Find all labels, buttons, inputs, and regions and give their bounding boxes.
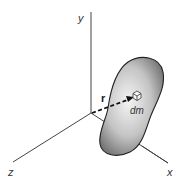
mass-element-cube-icon [133,91,141,101]
z-axis-label: z [7,166,14,178]
x-axis-front [142,146,168,163]
y-axis-label: y [77,12,85,24]
vector-r-label: r [101,92,106,104]
x-axis-label: x [166,166,173,178]
z-axis [13,113,91,162]
mass-element-label: dm [130,105,144,116]
rigid-body-diagram: y z x r dm [0,0,188,182]
